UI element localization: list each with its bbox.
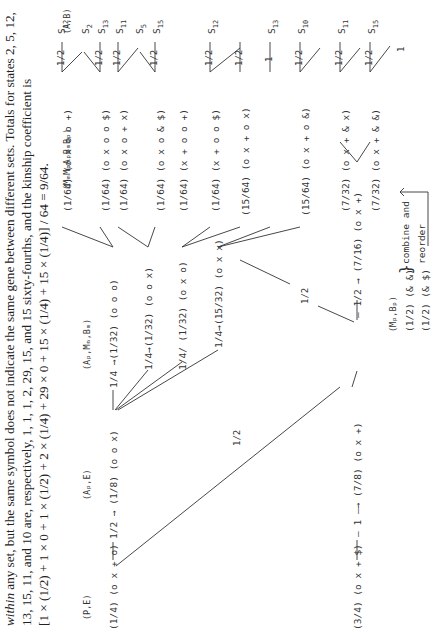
c2-node-0-genes: (o o x)	[108, 430, 119, 470]
edge-label: 1/2	[204, 50, 214, 66]
state-letter: S	[366, 28, 377, 34]
state-s11: S11	[114, 20, 128, 34]
c2-node-1-edge: 1	[352, 520, 363, 526]
c4-node-0-prob: (1/64)	[62, 178, 73, 212]
state-s13-b: S13	[266, 20, 280, 34]
edge-label: 1/2	[334, 50, 344, 66]
c4-node-0-genes: (o x o o +)	[62, 109, 73, 172]
c4-node-9-genes: (o x + & &)	[370, 109, 381, 172]
state-index: 5	[140, 24, 148, 28]
c4-node-4-genes: (x + o o +)	[178, 109, 189, 172]
edge-label: 1	[396, 47, 406, 52]
c3-node-2-edge: 1/4	[177, 353, 188, 370]
c2-node-0-edge: 1/2	[108, 522, 119, 539]
c1-node-0-prob: (1/4)	[108, 601, 119, 630]
state-index: 11	[342, 20, 350, 28]
state-s5: S5	[134, 24, 148, 34]
c2-node-1: — 1 —→ (7/8) (o x +)	[352, 423, 363, 537]
state-letter: S	[266, 28, 277, 34]
c4-node-1: (1/64) (o x o o $)	[100, 109, 111, 212]
header-mp-bp: (Mₚ,Bₚ)	[388, 296, 398, 332]
state-s13: S13	[96, 20, 110, 34]
mpbp-row-1: (1/2) (& $)	[420, 269, 431, 332]
state-s11-b: S11	[336, 20, 350, 34]
c4-node-5: (1/64) (x + o o $)	[210, 109, 221, 212]
c4-node-8-genes: (o x + & x)	[340, 109, 351, 172]
c4-node-9-prob: (7/32)	[370, 178, 381, 212]
c4-node-4: (1/64) (x + o o +)	[178, 109, 189, 212]
state-letter: S	[151, 28, 162, 34]
state-s15: S15	[151, 20, 165, 34]
c4-node-2-prob: (1/64)	[118, 178, 129, 212]
c3-node-0-prob: (1/32)	[108, 325, 119, 359]
c1-node-1: (3/4) (o x + $)	[352, 544, 363, 630]
annotation-line-2: reorder	[416, 224, 427, 264]
cross-edge-c2-c3: 1/2	[300, 288, 310, 304]
edge-label: 1/2	[112, 50, 122, 66]
c3-node-4: — 1/2 → (7/16) (o x +)	[352, 192, 363, 318]
c1-node-0-genes: (o x + o)	[108, 544, 119, 595]
mpbp-row-1-genes: (& $)	[420, 269, 431, 298]
c1-node-1-genes: (o x + $)	[352, 544, 363, 595]
c4-node-7-prob: (15/64)	[300, 176, 311, 216]
c2-node-1-genes: (o x +)	[352, 423, 363, 463]
state-letter: S	[296, 28, 307, 34]
state-letter: S	[80, 28, 91, 34]
state-letter: S	[96, 28, 107, 34]
c4-node-3-prob: (1/64)	[155, 178, 166, 212]
state-index: 2	[86, 24, 94, 28]
edge-label: 1/2	[149, 50, 159, 66]
c3-node-1-prob: (1/32)	[143, 313, 154, 347]
state-index: 13	[102, 20, 110, 28]
c4-node-2-genes: (o x o + x)	[118, 109, 129, 172]
edge-label: 1/2	[234, 50, 244, 66]
c4-node-6-prob: (15/64)	[240, 176, 251, 216]
c4-node-5-prob: (1/64)	[210, 178, 221, 212]
state-s10: S10	[296, 20, 310, 34]
c3-node-4-prob: (7/16)	[352, 238, 363, 272]
c3-node-1-genes: (o o x)	[143, 267, 154, 307]
state-s15-b: S15	[366, 20, 380, 34]
edge-label: 1/2	[56, 50, 66, 66]
state-index: 12	[212, 20, 220, 28]
state-index: 15	[372, 20, 380, 28]
c4-node-4-prob: (1/64)	[178, 178, 189, 212]
c3-node-2: 1/4/ (1/32) (o x o)	[177, 261, 188, 370]
edge-label: 1	[264, 57, 274, 62]
c4-node-3-genes: (o x o & $)	[155, 109, 166, 172]
c4-node-7-genes: (o x + o &)	[300, 107, 311, 170]
state-index: 13	[272, 20, 280, 28]
c3-node-3-genes: (o x x)	[213, 239, 224, 279]
c3-node-2-prob: (1/32)	[177, 307, 188, 341]
c1-node-0: (1/4) (o x + o)	[108, 544, 119, 630]
c3-node-0: 1/4 →(1/32) (o o o)	[108, 279, 119, 388]
mpbp-row-1-prob: (1/2)	[420, 303, 431, 332]
edge-label: 1/2	[294, 50, 304, 66]
state-index: 15	[157, 20, 165, 28]
edge-label: 1/2	[94, 50, 104, 66]
state-letter: S	[206, 28, 217, 34]
c4-node-9: (7/32) (o x + & &)	[370, 109, 381, 212]
c4-node-2: (1/64) (o x o + x)	[118, 109, 129, 212]
edge-label: 1/2	[364, 50, 374, 66]
c4-node-0: (1/64) (o x o o +)	[62, 109, 73, 212]
c3-node-0-edge: 1/4	[108, 371, 119, 388]
c3-node-2-genes: (o x o)	[177, 261, 188, 301]
c4-node-1-genes: (o x o o $)	[100, 109, 111, 172]
c3-node-3-edge: 1/4	[213, 331, 224, 348]
state-letter: S	[336, 28, 347, 34]
c3-node-3: 1/4→(15/32) (o x x)	[213, 239, 224, 348]
mpbp-row-0-prob: (1/2)	[404, 303, 415, 332]
c3-node-4-edge: 1/2	[352, 289, 363, 306]
c4-node-6-genes: (o x + o x)	[240, 107, 251, 170]
c3-node-4-genes: (o x +)	[352, 192, 363, 232]
state-index: 11	[120, 20, 128, 28]
state-letter: S	[56, 28, 67, 34]
document-page: within any set, but the same symbol does…	[0, 0, 448, 632]
state-s12-b: S12	[206, 20, 220, 34]
annotation-line-1: combine and	[400, 201, 411, 264]
c2-node-0-prob: (1/8)	[108, 476, 119, 505]
state-s2: S2	[80, 24, 94, 34]
c2-node-0: 1/2 → (1/8) (o o x)	[108, 430, 119, 539]
c3-node-1: 1/4→(1/32) (o o x)	[143, 267, 154, 370]
